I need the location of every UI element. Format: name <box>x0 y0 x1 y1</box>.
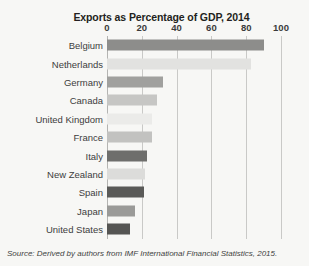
bar-label-canada: Canada <box>70 95 103 106</box>
bar-label-france: France <box>73 132 103 143</box>
bar-row: Netherlands <box>107 54 281 72</box>
x-tick-label-0: 0 <box>104 22 109 33</box>
bar-row: New Zealand <box>107 165 281 183</box>
bar-label-spain: Spain <box>79 187 103 198</box>
bar-france <box>107 132 152 143</box>
bar-label-italy: Italy <box>86 150 103 161</box>
bar-label-belgium: Belgium <box>69 40 103 51</box>
bar-row: France <box>107 128 281 146</box>
x-tick-label-60: 60 <box>206 22 217 33</box>
source-suffix: , 2015. <box>253 249 277 258</box>
bar-belgium <box>107 40 264 51</box>
bar-canada <box>107 95 157 106</box>
bar-label-united-kingdom: United Kingdom <box>35 113 103 124</box>
bar-row: Italy <box>107 146 281 164</box>
bar-row: United States <box>107 220 281 238</box>
gridline-100 <box>281 36 282 239</box>
bar-label-united-states: United States <box>46 224 103 235</box>
bar-row: Japan <box>107 202 281 220</box>
bar-label-new-zealand: New Zealand <box>47 168 103 179</box>
bar-label-germany: Germany <box>64 76 103 87</box>
bar-row: United Kingdom <box>107 110 281 128</box>
bar-japan <box>107 205 135 216</box>
bar-spain <box>107 187 144 198</box>
x-tick-label-100: 100 <box>273 22 289 33</box>
bar-italy <box>107 150 147 161</box>
plot-area: BelgiumNetherlandsGermanyCanadaUnited Ki… <box>107 36 281 239</box>
x-axis-tick-labels: 020406080100 <box>0 22 309 35</box>
bar-germany <box>107 76 163 87</box>
bar-row: Germany <box>107 73 281 91</box>
x-tick-label-80: 80 <box>241 22 252 33</box>
bar-row: Canada <box>107 91 281 109</box>
bar-netherlands <box>107 58 251 69</box>
source-publication: IMF International Financial Statistics <box>124 249 252 258</box>
bar-united-kingdom <box>107 113 152 124</box>
chart-figure: Exports as Percentage of GDP, 2014 02040… <box>0 0 309 266</box>
bar-label-japan: Japan <box>77 205 103 216</box>
x-tick-label-40: 40 <box>171 22 182 33</box>
source-note: Source: Derived by authors from IMF Inte… <box>7 249 277 258</box>
bar-united-states <box>107 224 130 235</box>
source-prefix: Source: Derived by authors from <box>7 249 124 258</box>
bar-label-netherlands: Netherlands <box>52 58 103 69</box>
bar-new-zealand <box>107 168 145 179</box>
bar-row: Spain <box>107 183 281 201</box>
bar-row: Belgium <box>107 36 281 54</box>
x-tick-label-20: 20 <box>137 22 148 33</box>
